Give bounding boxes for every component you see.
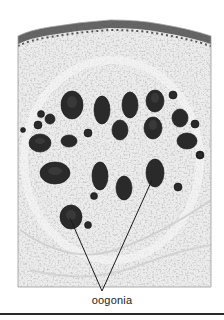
divider-rule: [0, 313, 224, 315]
micrograph-image: [0, 0, 224, 300]
figure: oogonia: [0, 0, 224, 320]
oogonia-label: oogonia: [0, 294, 224, 306]
